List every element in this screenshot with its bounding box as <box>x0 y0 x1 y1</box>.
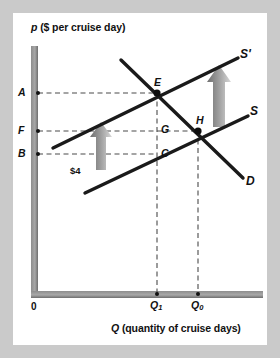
right-shift-arrow <box>207 65 231 127</box>
y-axis-bar <box>31 46 38 298</box>
x-tick-label-Q1: Q1 <box>150 300 162 312</box>
tick-dot-B <box>36 152 40 156</box>
tick-dot-F <box>36 129 40 133</box>
figure-root: p ($ per cruise day) Q (quantity of crui… <box>0 0 280 358</box>
tax-amount-label: $4 <box>70 166 81 176</box>
x-tick-label-Q0-base: Q <box>191 299 199 311</box>
point-label-G: G <box>161 124 169 135</box>
point-H-dot <box>194 127 201 134</box>
y-tick-label-F: F <box>18 125 24 136</box>
x-axis-title-symbol: Q <box>111 322 119 334</box>
point-label-E: E <box>154 77 161 88</box>
tick-dot-Q1 <box>155 292 159 296</box>
origin-label: 0 <box>31 302 37 312</box>
point-label-H: H <box>196 115 204 126</box>
tick-dot-Q0 <box>196 292 200 296</box>
y-tick-label-A: A <box>18 87 26 98</box>
curve-label-supply: S <box>250 105 258 117</box>
y-tick-label-B: B <box>18 148 26 159</box>
point-E-dot <box>153 89 160 96</box>
curve-label-demand: D <box>246 175 255 187</box>
curve-label-supply-shifted: S' <box>240 48 251 60</box>
x-axis-bar <box>31 291 263 298</box>
plot-canvas <box>0 0 280 358</box>
y-axis-title-unit: ($ per cruise day) <box>40 21 125 33</box>
x-tick-label-Q0-sub: 0 <box>199 303 203 312</box>
x-axis-title-unit: (quantity of cruise days) <box>122 322 241 334</box>
point-label-C: C <box>161 148 169 159</box>
x-tick-label-Q0: Q0 <box>191 300 203 312</box>
x-tick-label-Q1-sub: 1 <box>158 303 162 312</box>
tick-dot-A <box>36 91 40 95</box>
y-axis-title: p ($ per cruise day) <box>31 22 125 33</box>
x-axis-title: Q (quantity of cruise days) <box>111 323 241 334</box>
x-tick-label-Q1-base: Q <box>150 299 158 311</box>
